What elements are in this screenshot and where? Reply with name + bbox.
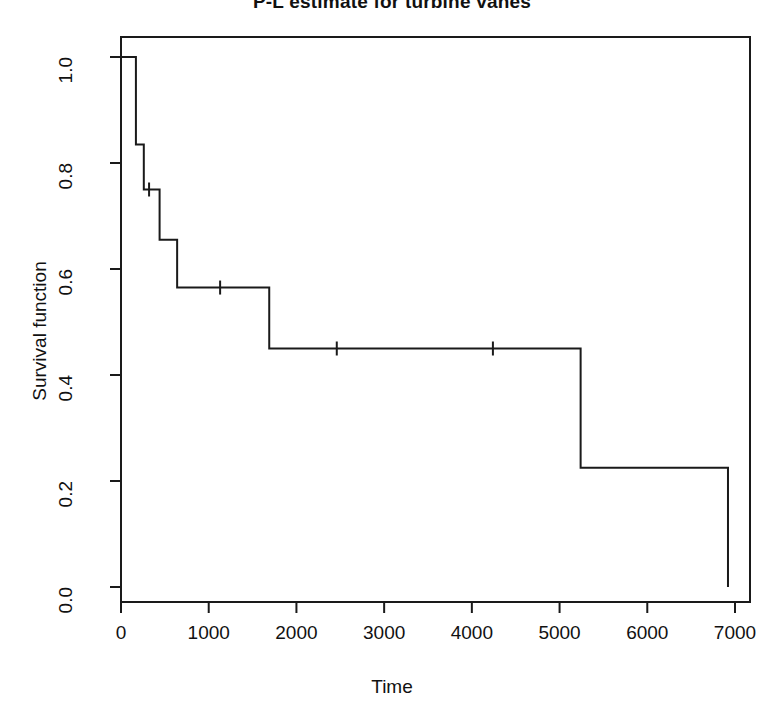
y-tick-label: 0.0 bbox=[55, 587, 77, 613]
y-tick-label: 0.8 bbox=[55, 163, 77, 189]
y-axis-ticks bbox=[110, 57, 121, 587]
x-axis-ticks bbox=[121, 602, 735, 613]
x-tick-label: 7000 bbox=[714, 622, 756, 644]
y-axis-title: Survival function bbox=[29, 231, 51, 431]
plot-area bbox=[0, 0, 784, 727]
x-tick-label: 3000 bbox=[363, 622, 405, 644]
x-tick-label: 4000 bbox=[451, 622, 493, 644]
x-tick-label: 6000 bbox=[626, 622, 668, 644]
y-tick-label: 0.4 bbox=[55, 375, 77, 401]
x-tick-label: 1000 bbox=[188, 622, 230, 644]
plot-frame bbox=[121, 37, 750, 602]
y-tick-label: 1.0 bbox=[55, 57, 77, 83]
censor-marks bbox=[149, 183, 493, 356]
survival-step-line bbox=[121, 57, 728, 587]
y-tick-label: 0.2 bbox=[55, 481, 77, 507]
x-axis-title: Time bbox=[0, 676, 784, 698]
chart-canvas: P-L estimate for turbine vanes 010002000… bbox=[0, 0, 784, 727]
survival-step-curve bbox=[121, 57, 728, 587]
x-tick-label: 0 bbox=[116, 622, 127, 644]
x-tick-label: 5000 bbox=[538, 622, 580, 644]
y-tick-label: 0.6 bbox=[55, 269, 77, 295]
plot-box bbox=[121, 37, 750, 602]
x-tick-label: 2000 bbox=[275, 622, 317, 644]
